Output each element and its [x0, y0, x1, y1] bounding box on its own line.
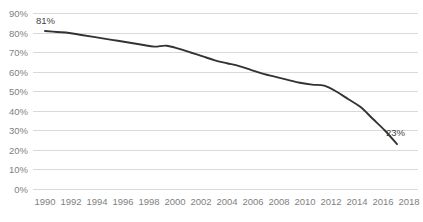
y-tick-label-50: 50% [9, 86, 29, 97]
x-tick-label-2008: 2008 [268, 196, 289, 207]
x-tick-label-1992: 1992 [60, 196, 81, 207]
x-tick-label-2004: 2004 [216, 196, 237, 207]
y-tick-label-30: 30% [9, 125, 29, 136]
x-tick-label-2012: 2012 [320, 196, 341, 207]
y-tick-label-10: 10% [9, 164, 29, 175]
y-tick-label-80: 80% [9, 28, 29, 39]
line-chart: 90% 80% 70% 60% 50% 40% 30% 20% 10% 0% 1… [0, 0, 423, 222]
x-tick-label-2016: 2016 [372, 196, 393, 207]
y-tick-label-40: 40% [9, 106, 29, 117]
x-tick-label-1990: 1990 [34, 196, 55, 207]
y-tick-label-70: 70% [9, 47, 29, 58]
data-label-start: 81% [36, 15, 56, 26]
data-series-line [45, 31, 397, 144]
chart-canvas: 90% 80% 70% 60% 50% 40% 30% 20% 10% 0% 1… [0, 0, 423, 222]
gridlines [33, 14, 418, 190]
x-tick-label-2002: 2002 [190, 196, 211, 207]
y-tick-label-0: 0% [14, 184, 28, 195]
y-tick-label-60: 60% [9, 67, 29, 78]
x-axis-tick-labels: 1990 1992 1994 1996 1998 2000 2002 2004 … [34, 196, 419, 207]
y-axis-tick-labels: 90% 80% 70% 60% 50% 40% 30% 20% 10% 0% [9, 8, 29, 195]
y-tick-label-20: 20% [9, 145, 29, 156]
data-label-end: 23% [386, 127, 406, 138]
x-tick-label-2014: 2014 [346, 196, 367, 207]
x-tick-label-1994: 1994 [86, 196, 107, 207]
x-tick-label-1996: 1996 [112, 196, 133, 207]
x-tick-label-2000: 2000 [164, 196, 185, 207]
x-tick-label-1998: 1998 [138, 196, 159, 207]
x-tick-label-2006: 2006 [242, 196, 263, 207]
x-tick-label-2010: 2010 [294, 196, 315, 207]
y-tick-label-90: 90% [9, 8, 29, 19]
x-tick-label-2018: 2018 [398, 196, 419, 207]
